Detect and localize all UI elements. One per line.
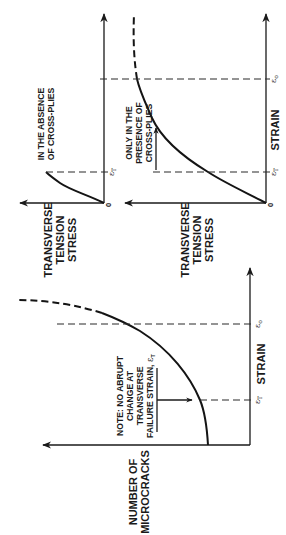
x-axis-title-microcracks: STRAIN [255,343,267,384]
origin-label: 0 [104,203,113,207]
epsilon-t-label: εT [269,168,279,176]
svg-text:εo: εo [253,320,263,328]
y-axis-title-absence: TRANSVERSE TENSION STRESS [42,202,78,277]
svg-text:ONLY IN THE: ONLY IN THE [124,106,134,160]
origin-label: 0 [266,203,275,207]
svg-text:FAILURE STRAIN, εT: FAILURE STRAIN, εT [145,354,156,438]
diagram-canvas: 0 εT IN THE ABSENCE OF CROSS-PLIES TRANS… [0,0,286,535]
svg-text:PRESENCE OF: PRESENCE OF [134,102,144,164]
svg-text:CHANGE AT: CHANGE AT [125,370,135,421]
svg-text:MICROCRACKS: MICROCRACKS [139,450,151,534]
panel-microcracks: εT εo NOTE: NO ABRUPT CHANGE AT TRANSVER… [18,268,267,534]
y-axis-title-presence: TRANSVERSE TENSION STRESS [179,202,215,277]
extrapolated-microcracks-curve [18,300,102,313]
svg-text:TENSION: TENSION [191,216,203,265]
epsilon-o-label: εo [253,320,263,328]
extrapolated-curve [134,14,137,79]
svg-text:CROSS-PLIES: CROSS-PLIES [144,104,154,163]
svg-text:TENSION: TENSION [54,216,66,265]
y-axis-title-microcracks: NUMBER OF MICROCRACKS [127,450,151,534]
annotation-presence: ONLY IN THE PRESENCE OF CROSS-PLIES [124,102,154,164]
x-axis-title-presence: STRAIN [269,109,281,150]
svg-text:OF CROSS-PLIES: OF CROSS-PLIES [46,87,56,160]
svg-text:εT: εT [269,168,279,176]
epsilon-t-label: εT [253,396,263,404]
panel-presence: 0 εT εo ONLY IN THE PRESENCE OF CROSS-PL… [100,14,281,278]
panel-absence: 0 εT IN THE ABSENCE OF CROSS-PLIES TRANS… [20,14,117,278]
svg-text:TRANSVERSE: TRANSVERSE [179,202,191,277]
svg-text:NUMBER OF: NUMBER OF [127,458,139,525]
stress-strain-curve [46,172,104,203]
svg-text:IN THE ABSENCE: IN THE ABSENCE [36,88,46,161]
svg-text:εo: εo [269,75,279,83]
annotation-absence: IN THE ABSENCE OF CROSS-PLIES [36,87,56,160]
svg-text:STRESS: STRESS [66,218,78,262]
epsilon-o-label: εo [269,75,279,83]
svg-text:NOTE: NO ABRUPT: NOTE: NO ABRUPT [115,355,125,436]
svg-text:TRANSVERSE: TRANSVERSE [42,202,54,277]
svg-text:εT: εT [107,168,117,176]
annotation-microcracks: NOTE: NO ABRUPT CHANGE AT TRANSVERSE FAI… [115,354,156,438]
svg-text:εT: εT [253,396,263,404]
svg-text:TRANSVERSE: TRANSVERSE [135,366,145,425]
svg-text:STRESS: STRESS [203,218,215,262]
epsilon-t-label: εT [107,168,117,176]
